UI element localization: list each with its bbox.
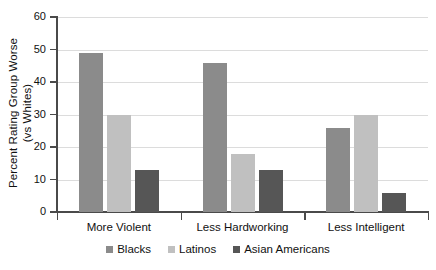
bar-latinos-less-hardworking	[231, 154, 255, 213]
y-axis-tick	[50, 211, 56, 213]
x-axis-category-separator	[304, 212, 305, 220]
x-axis-category-label: More Violent	[57, 221, 181, 234]
y-axis-tick-label: 20	[18, 141, 46, 152]
y-axis-line	[56, 16, 58, 213]
y-axis-tick	[50, 114, 56, 116]
y-axis-tick	[50, 16, 56, 18]
bar-asian-americans-more-violent	[135, 170, 159, 212]
y-axis-tick	[50, 81, 56, 83]
bar-blacks-less-intelligent	[326, 128, 350, 213]
y-axis-tick-label: 10	[18, 174, 46, 185]
bar-asian-americans-less-intelligent	[382, 193, 406, 213]
legend-label: Asian Americans	[244, 243, 330, 255]
legend-swatch-icon	[233, 246, 240, 253]
bar-latinos-more-violent	[107, 115, 131, 213]
bar-blacks-more-violent	[79, 53, 103, 212]
gridline	[57, 17, 428, 18]
chart-legend: BlacksLatinosAsian Americans	[0, 243, 436, 255]
legend-label: Blacks	[117, 243, 151, 255]
x-axis-category-label: Less Intelligent	[304, 221, 428, 234]
legend-item-asian-americans: Asian Americans	[233, 243, 330, 255]
x-axis-category-label: Less Hardworking	[181, 221, 305, 234]
y-axis-tick-label: 40	[18, 76, 46, 87]
legend-item-blacks: Blacks	[106, 243, 151, 255]
y-axis-tick	[50, 146, 56, 148]
y-axis-tick-label: 30	[18, 109, 46, 120]
legend-swatch-icon	[168, 246, 175, 253]
y-axis-tick	[50, 179, 56, 181]
y-axis-tick-label: 60	[18, 11, 46, 22]
y-axis-tick-label: 50	[18, 44, 46, 55]
y-axis-tick	[50, 49, 56, 51]
legend-swatch-icon	[106, 246, 113, 253]
bar-asian-americans-less-hardworking	[259, 170, 283, 212]
gridline	[57, 82, 428, 83]
legend-label: Latinos	[179, 243, 216, 255]
bar-chart-figure: Percent Rating Group Worse (vs Whites) 0…	[0, 0, 436, 270]
x-axis-category-separator	[57, 212, 58, 220]
x-axis-category-separator	[428, 212, 429, 220]
legend-item-latinos: Latinos	[168, 243, 216, 255]
x-axis-category-separator	[181, 212, 182, 220]
bar-blacks-less-hardworking	[203, 63, 227, 213]
bar-latinos-less-intelligent	[354, 115, 378, 213]
gridline	[57, 50, 428, 51]
y-axis-tick-label: 0	[18, 206, 46, 217]
